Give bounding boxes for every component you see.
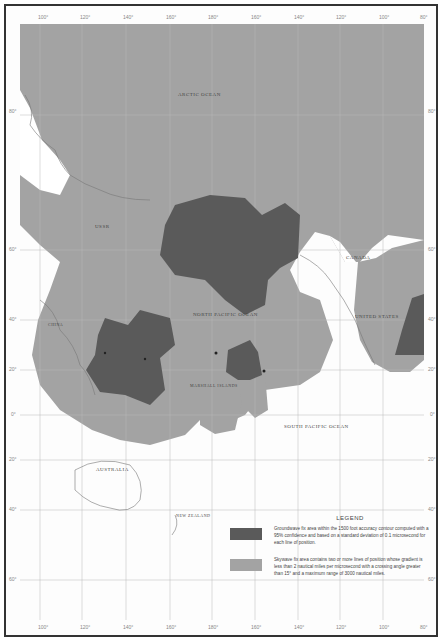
lon-tick-bottom: 140° <box>294 624 304 630</box>
lon-tick-bottom: 160° <box>166 624 176 630</box>
label-marshall-islands: MARSHALL ISLANDS <box>190 383 238 388</box>
legend: LEGEND Groundwave fix area within the 15… <box>230 515 430 577</box>
lon-tick-bottom: 100° <box>38 624 48 630</box>
lat-tick-left: 0° <box>11 411 16 417</box>
legend-text: Groundwave fix area within the 1500 foot… <box>274 525 430 546</box>
lon-tick-top: 140° <box>123 14 133 20</box>
lon-tick-top: 140° <box>294 14 304 20</box>
lat-tick-right: 0° <box>430 411 435 417</box>
label-arctic-ocean: ARCTIC OCEAN <box>178 92 221 97</box>
lat-tick-left: 40° <box>9 316 17 322</box>
lat-tick-left: 20° <box>9 366 17 372</box>
legend-item-groundwave: Groundwave fix area within the 1500 foot… <box>230 525 430 546</box>
lat-tick-right: 40° <box>428 506 436 512</box>
label-new-zealand: NEW ZEALAND <box>176 513 210 518</box>
lat-tick-left: 60° <box>9 246 17 252</box>
lon-tick-top: 180° <box>208 14 218 20</box>
legend-title: LEGEND <box>270 515 430 521</box>
groundwave-swatch <box>230 528 262 540</box>
legend-item-skywave: Skywave fix area contains two or more li… <box>230 556 430 577</box>
lon-tick-bottom: 180° <box>208 624 218 630</box>
lon-tick-bottom: 120° <box>336 624 346 630</box>
lat-tick-right: 40° <box>428 316 436 322</box>
label-south-pacific: SOUTH PACIFIC OCEAN <box>284 424 349 429</box>
legend-text: Skywave fix area contains two or more li… <box>274 556 430 577</box>
lat-tick-right: 60° <box>428 246 436 252</box>
label-ussr: USSR <box>95 224 110 229</box>
lon-tick-top: 160° <box>251 14 261 20</box>
lat-tick-right: 20° <box>428 366 436 372</box>
lat-tick-left: 60° <box>9 576 17 582</box>
label-canada: CANADA <box>346 255 370 260</box>
lat-tick-left: 80° <box>9 108 17 114</box>
lon-tick-top: 120° <box>80 14 90 20</box>
label-united-states: UNITED STATES <box>355 314 399 319</box>
lon-tick-bottom: 160° <box>251 624 261 630</box>
lat-tick-right: 80° <box>428 108 436 114</box>
lon-tick-top: 80° <box>420 14 428 20</box>
skywave-swatch <box>230 559 262 571</box>
lon-tick-top: 100° <box>379 14 389 20</box>
label-north-pacific: NORTH PACIFIC OCEAN <box>193 312 258 317</box>
lon-tick-top: 100° <box>38 14 48 20</box>
lon-tick-bottom: 100° <box>379 624 389 630</box>
lat-tick-left: 20° <box>9 456 17 462</box>
lon-tick-top: 160° <box>166 14 176 20</box>
lon-tick-top: 120° <box>336 14 346 20</box>
lat-tick-left: 40° <box>9 506 17 512</box>
lon-tick-bottom: 140° <box>123 624 133 630</box>
lat-tick-right: 20° <box>428 456 436 462</box>
lon-tick-bottom: 80° <box>420 624 428 630</box>
label-australia: AUSTRALIA <box>96 467 129 472</box>
label-china: CHINA <box>48 322 63 327</box>
lon-tick-bottom: 120° <box>80 624 90 630</box>
